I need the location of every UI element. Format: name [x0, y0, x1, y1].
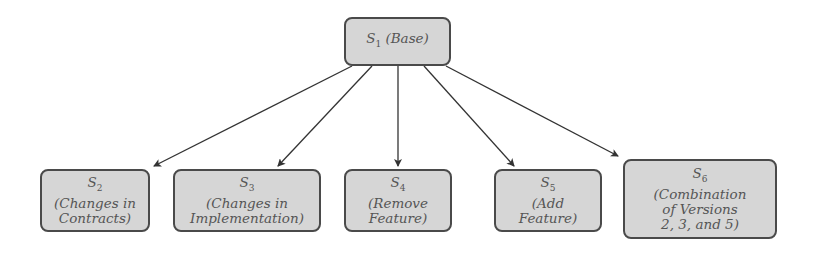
node-s6-combination: S6 (Combination of Versions 2, 3, and 5) — [623, 159, 777, 239]
node-s1-base: S1 (Base) — [344, 17, 451, 66]
node-s3-line-2: Implementation) — [190, 211, 304, 226]
edge-s1-s3 — [278, 66, 372, 166]
node-s2-symbol: S2 — [88, 175, 103, 196]
node-s1-label: S1 (Base) — [366, 31, 429, 52]
node-s3-changes-in-implementation: S3 (Changes in Implementation) — [173, 169, 321, 232]
node-s4-line-1: (Remove — [368, 196, 428, 211]
node-s5-symbol: S5 — [541, 175, 556, 196]
edge-s1-s6 — [446, 66, 618, 156]
node-s6-line-1: (Combination — [654, 187, 747, 202]
edge-s1-s2 — [154, 66, 352, 166]
node-s5-add-feature: S5 (Add Feature) — [494, 169, 602, 232]
node-s6-line-2: of Versions — [662, 202, 737, 217]
node-s2-line-1: (Changes in — [54, 196, 136, 211]
node-s5-line-1: (Add — [532, 196, 564, 211]
node-s2-changes-in-contracts: S2 (Changes in Contracts) — [40, 169, 150, 232]
node-s3-symbol: S3 — [240, 175, 255, 196]
node-s4-remove-feature: S4 (Remove Feature) — [344, 169, 452, 232]
node-s4-line-2: Feature) — [369, 211, 428, 226]
node-s5-line-2: Feature) — [519, 211, 578, 226]
node-s6-line-3: 2, 3, and 5) — [661, 217, 739, 232]
node-s2-line-2: Contracts) — [59, 211, 131, 226]
node-s6-symbol: S6 — [693, 166, 708, 187]
edge-s1-s5 — [424, 66, 514, 166]
node-s4-symbol: S4 — [391, 175, 406, 196]
node-s3-line-1: (Changes in — [206, 196, 288, 211]
